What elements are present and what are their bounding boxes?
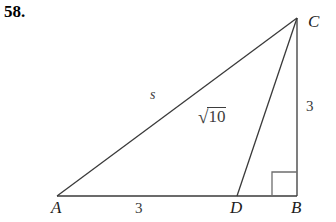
segment-ac-variable-label: s (150, 88, 155, 102)
vertex-label-d: D (230, 199, 242, 216)
vertex-label-a: A (51, 199, 61, 216)
segment-cd-radical-label: √10 (198, 106, 226, 125)
figure-page: 58. A D B C 3 3 s √10 (0, 0, 336, 222)
segment-CD-line (237, 18, 297, 196)
segment-ad-length-label: 3 (135, 201, 143, 216)
triangle-figure (0, 0, 336, 222)
radicand-value: 10 (207, 107, 226, 125)
segment-AC-line (57, 18, 297, 196)
vertex-label-b: B (291, 199, 301, 216)
segment-cb-length-label: 3 (306, 99, 314, 114)
right-angle-marker-icon (272, 172, 297, 196)
vertex-label-c: C (308, 13, 319, 30)
